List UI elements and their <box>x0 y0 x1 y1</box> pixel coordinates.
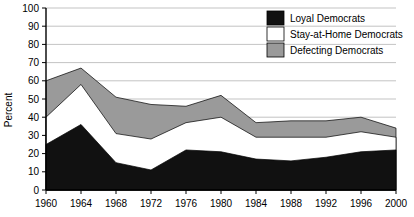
y-tick-label: 90 <box>28 21 40 32</box>
x-tick-label: 2000 <box>385 198 408 209</box>
legend-label: Stay-at-Home Democrats <box>290 29 403 40</box>
x-tick-label: 1988 <box>280 198 303 209</box>
y-axis-title-text: Percent <box>3 93 14 128</box>
legend-swatch <box>267 27 284 41</box>
legend-label: Loyal Democrats <box>290 13 365 24</box>
chart-page: 0102030405060708090100 19601964196819721… <box>0 0 414 217</box>
y-axis-tick-labels: 0102030405060708090100 <box>22 3 46 196</box>
x-tick-label: 1972 <box>140 198 163 209</box>
x-tick-label: 1964 <box>70 198 93 209</box>
y-tick-label: 10 <box>28 166 40 177</box>
legend-label: Defecting Democrats <box>290 45 383 56</box>
x-tick-label: 1996 <box>350 198 373 209</box>
x-tick-label: 1960 <box>35 198 58 209</box>
x-tick-label: 1984 <box>245 198 268 209</box>
y-tick-label: 30 <box>28 130 40 141</box>
legend-swatch <box>267 43 284 57</box>
legend-swatch <box>267 11 284 25</box>
y-tick-label: 0 <box>33 185 39 196</box>
x-axis-tick-labels: 1960196419681972197619801984198819921996… <box>35 190 408 209</box>
x-tick-label: 1992 <box>315 198 338 209</box>
x-tick-label: 1968 <box>105 198 128 209</box>
y-tick-label: 100 <box>22 3 39 14</box>
y-tick-label: 50 <box>28 94 40 105</box>
y-tick-label: 70 <box>28 57 40 68</box>
y-axis-title: Percent <box>3 93 14 128</box>
x-tick-label: 1976 <box>175 198 198 209</box>
x-tick-label: 1980 <box>210 198 233 209</box>
y-tick-label: 60 <box>28 75 40 86</box>
y-tick-label: 40 <box>28 112 40 123</box>
y-tick-label: 80 <box>28 39 40 50</box>
y-tick-label: 20 <box>28 148 40 159</box>
stacked-area-chart: 0102030405060708090100 19601964196819721… <box>0 0 414 217</box>
